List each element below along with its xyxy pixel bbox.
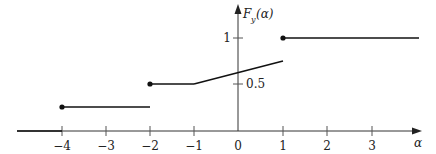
closed-point [59,104,64,109]
y-tick-label-half: 0.5 [246,77,265,91]
x-tick-label: 1 [279,139,287,153]
x-tick-label: 2 [323,139,331,153]
y-tick-label-one: 1 [223,31,231,45]
cdf-series [17,38,419,131]
jump-points [59,35,285,109]
closed-point [280,35,285,40]
cdf-chart: −4 −3 −2 −1 0 1 2 3 1 0.5 α F y (α) [0,0,436,154]
x-tick-label: −3 [97,139,115,153]
x-tick-label: −1 [185,139,203,153]
closed-point [147,81,152,86]
x-axis-arrow-icon [412,128,422,135]
x-axis-label: α [414,136,422,150]
y-axis-label-arg: (α) [256,7,274,21]
x-tick-label: 3 [368,139,376,153]
x-tick-label: −2 [141,139,159,153]
y-axis-arrow-icon [235,4,242,14]
x-tick-label: 0 [234,139,242,153]
x-tick-label: −4 [53,139,71,153]
